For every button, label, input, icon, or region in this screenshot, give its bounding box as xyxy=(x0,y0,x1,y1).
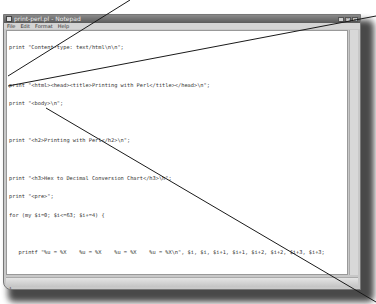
menu-edit[interactable]: Edit xyxy=(20,23,30,29)
code-line: print "<pre>"; xyxy=(9,193,345,199)
code-line: print "Content-type: text/html\n\n"; xyxy=(9,44,345,50)
menu-file[interactable]: File xyxy=(7,23,15,29)
maximize-button[interactable]: □ xyxy=(345,17,351,22)
code-line xyxy=(9,268,345,274)
notepad-window: print-perl.pl - Notepad _ □ × File Edit … xyxy=(3,14,361,290)
text-editor[interactable]: print "Content-type: text/html\n\n"; pri… xyxy=(6,30,348,275)
menu-format[interactable]: Format xyxy=(35,23,53,29)
code-line: print "<html><head><title>Printing with … xyxy=(9,82,345,88)
title-bar[interactable]: print-perl.pl - Notepad _ □ × xyxy=(4,15,360,23)
minimize-button[interactable]: _ xyxy=(338,17,344,22)
code-line xyxy=(9,119,345,125)
window-bottom-edge xyxy=(6,277,358,287)
code-line: print "<h3>Hex to Decimal Conversion Cha… xyxy=(9,175,345,181)
code-line xyxy=(9,230,345,236)
menu-help[interactable]: Help xyxy=(58,23,69,29)
menu-bar: File Edit Format Help xyxy=(4,23,360,29)
code-line xyxy=(9,156,345,162)
code-line: print "<body>\n"; xyxy=(9,100,345,106)
window-controls: _ □ × xyxy=(338,17,360,22)
code-line: print "<h2>Printing with Perl</h2>\n"; xyxy=(9,137,345,143)
window-title: print-perl.pl - Notepad xyxy=(14,15,81,23)
code-line: for (my $i=0; $i<=63; $i+=4) { xyxy=(9,212,345,218)
code-line: printf "%u = %X %u = %X %u = %X %u = %X\… xyxy=(9,249,345,255)
close-button[interactable]: × xyxy=(352,17,358,22)
vertical-scrollbar[interactable] xyxy=(349,30,358,275)
code-content: print "Content-type: text/html\n\n"; pri… xyxy=(7,31,347,290)
notepad-icon xyxy=(6,16,12,22)
code-line xyxy=(9,63,345,69)
